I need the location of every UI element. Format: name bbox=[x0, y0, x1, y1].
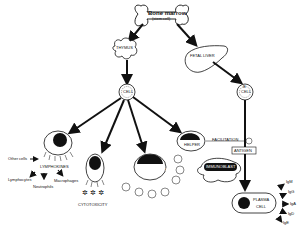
immunoblast-label: IMMUNOBLAST bbox=[206, 165, 235, 169]
ig-label: IgM bbox=[286, 180, 293, 184]
ig-label: IgA bbox=[290, 202, 296, 206]
plasma-label-line2: CELL bbox=[256, 205, 266, 209]
plasma-label-line1: PLASMA bbox=[253, 198, 269, 202]
helper-label: HELPER bbox=[184, 143, 200, 147]
facilitation-label: FACILITATION bbox=[212, 138, 238, 142]
immunoblast-cell bbox=[198, 158, 241, 182]
ig-label: IgD bbox=[288, 212, 294, 216]
ig-label: IgG bbox=[288, 190, 294, 194]
cytotoxic-cell: ✲ ✲ ✲ bbox=[82, 154, 104, 197]
arrow-liver-bcell bbox=[213, 62, 240, 82]
suppressor-label: SUPPRESSOR bbox=[138, 168, 166, 172]
ig-label: IgE bbox=[283, 221, 289, 225]
immunoglobulin-arrows bbox=[278, 185, 287, 221]
svg-text:✲ ✲ ✲: ✲ ✲ ✲ bbox=[82, 189, 104, 197]
bone-marrow-subtitle: (stem cell) bbox=[152, 17, 170, 21]
thymus-label: THYMUS bbox=[116, 46, 133, 50]
macrophages-label: Macrophages bbox=[54, 179, 78, 183]
cytotoxicity-label: CYTOTOXICITY bbox=[78, 203, 107, 207]
other-cells-label: Other cells bbox=[8, 157, 27, 161]
lymphocytes-label: Lymphocytes bbox=[8, 178, 31, 182]
lymphokines-label: LYMPHOKINES bbox=[40, 165, 69, 169]
arrow-marrow-liver bbox=[177, 24, 195, 44]
neutrophils-label: Neutrophils bbox=[33, 185, 53, 189]
antigen-label: ANTIGEN bbox=[234, 149, 252, 153]
arrow-marrow-thymus bbox=[130, 24, 143, 40]
arrow-t-suppressor bbox=[128, 100, 144, 150]
b-cell-label: CELL bbox=[241, 90, 251, 94]
arrow-t-helper bbox=[133, 97, 179, 131]
lymphokine-cell bbox=[44, 131, 73, 161]
t-cell-label: CELL bbox=[123, 90, 133, 94]
plasma-cell bbox=[232, 193, 276, 213]
suppressor-cell bbox=[122, 154, 184, 198]
fetal-liver-label: FETAL LIVER bbox=[190, 54, 215, 58]
